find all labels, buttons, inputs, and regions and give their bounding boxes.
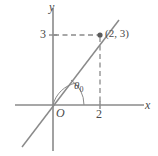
point-coordinate-label: (2, 3) [105, 28, 129, 39]
x-axis-tick-label-2: 2 [96, 108, 102, 120]
point-marker-2-3 [97, 32, 102, 37]
y-axis-tick-label-3: 3 [40, 28, 46, 40]
coordinate-plane-figure: y x O 3 2 (2, 3) θ0 [0, 0, 158, 156]
x-axis-label: x [145, 99, 150, 111]
angle-theta-label: θ0 [74, 80, 83, 94]
theta-subscript: 0 [79, 85, 83, 94]
y-axis-label: y [49, 1, 54, 13]
origin-label: O [56, 107, 65, 119]
diagonal-line [22, 20, 119, 147]
diagram-canvas [0, 0, 158, 156]
